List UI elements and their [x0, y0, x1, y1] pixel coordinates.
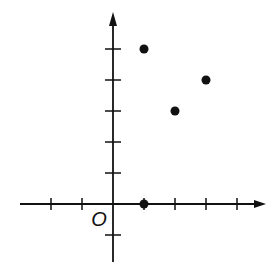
- x-axis-arrow-icon: [254, 200, 266, 208]
- y-axis-arrow-icon: [109, 12, 117, 26]
- coordinate-plane: O: [0, 0, 274, 270]
- data-point: [202, 76, 211, 85]
- data-point: [140, 45, 149, 54]
- origin-label: O: [91, 208, 107, 230]
- data-point: [171, 107, 180, 116]
- data-point: [140, 200, 149, 209]
